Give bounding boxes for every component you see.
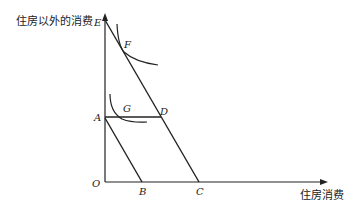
- point-label-G: G: [123, 103, 131, 114]
- y-axis-arrow-icon: [102, 13, 108, 21]
- budget-line-AB: [105, 118, 142, 182]
- point-label-C: C: [196, 186, 204, 197]
- point-label-A: A: [93, 112, 101, 123]
- point-label-E: E: [93, 17, 102, 28]
- indifference-diagram: 住房以外的消费 住房消费 E F G A D O B C: [0, 0, 358, 207]
- point-label-B: B: [138, 186, 146, 197]
- point-label-O: O: [92, 178, 100, 189]
- point-label-F: F: [123, 39, 132, 50]
- y-axis-label: 住房以外的消费: [16, 14, 93, 28]
- point-label-D: D: [159, 106, 168, 117]
- x-axis-arrow-icon: [320, 179, 328, 185]
- budget-line-EC: [105, 20, 199, 182]
- x-axis-label: 住房消费: [300, 188, 344, 202]
